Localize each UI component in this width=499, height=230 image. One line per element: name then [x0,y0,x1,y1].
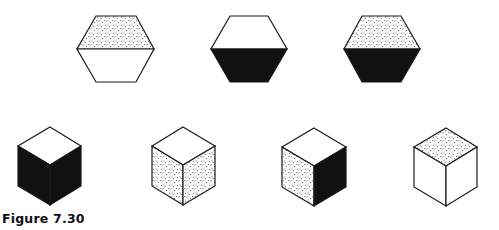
cube-4 [414,128,477,206]
hex-1-top-half [77,16,154,49]
hexagon-1 [77,16,154,82]
cube-1 [18,127,81,205]
figure-canvas [0,0,499,230]
hex-3-top-half [344,16,420,49]
hex-2-top-half [211,16,287,49]
hex-2-bottom-half [211,49,287,82]
hexagon-3 [344,16,420,82]
figure-caption: Figure 7.30 [2,211,85,226]
cube-2 [152,127,215,205]
hex-3-bottom-half [344,49,420,82]
hexagon-2 [211,16,287,82]
hex-1-bottom-half [77,49,154,82]
cube-3 [282,128,346,206]
